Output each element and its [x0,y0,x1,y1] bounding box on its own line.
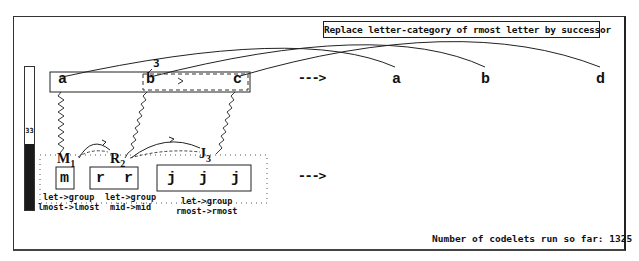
group-label-m: M1 [57,151,75,169]
target-letter-r1: r [96,171,105,186]
modified-letter-a: a [392,72,401,87]
target-letter-r2: r [124,171,133,186]
description-j: let->group rmost->rmost [176,196,237,216]
diagram-lines [0,0,639,261]
group-label-r: R2 [110,151,125,169]
bottom-arrow: ---> [298,168,325,183]
initial-letter-c: c [233,72,242,87]
modified-letter-d: d [596,72,605,87]
codelet-counter-label: Number of codelets run so far: [432,233,604,244]
initial-letter-a: a [58,72,67,87]
codelet-counter-value: 1325 [609,233,632,244]
target-letter-j3: j [231,171,240,186]
bond-label: 3 [153,59,160,69]
initial-letter-b: b [146,72,155,87]
codelet-counter: Number of codelets run so far: 1325 [432,233,632,244]
group-label-j: J3 [199,146,211,164]
description-m: let->group lmost->lmost [38,192,99,212]
target-letter-j1: j [167,171,176,186]
modified-letter-b: b [481,72,490,87]
top-arrow: ---> [298,70,325,85]
target-letter-m: m [60,171,69,186]
description-r: let->group mid->mid [105,192,156,212]
target-letter-j2: j [199,171,208,186]
